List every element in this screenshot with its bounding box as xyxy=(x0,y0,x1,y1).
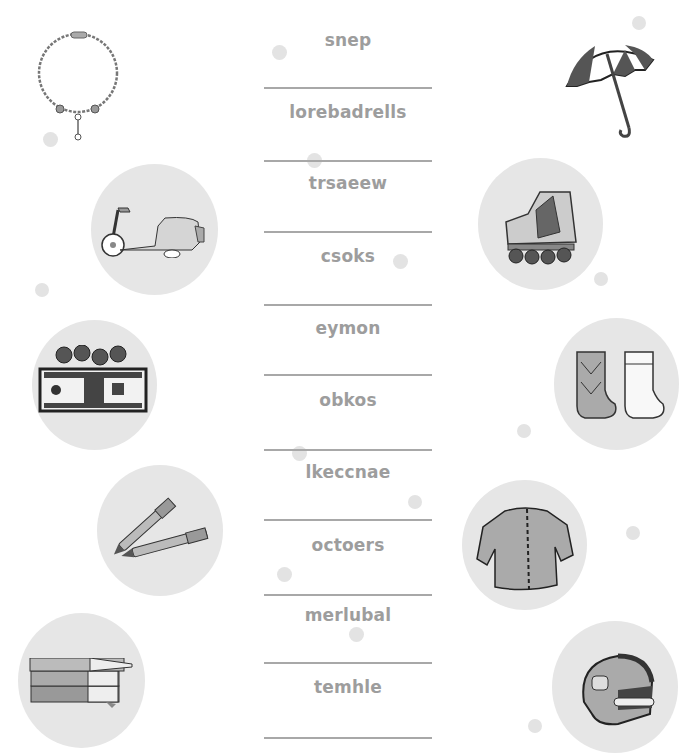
decor-dot xyxy=(626,526,640,540)
scrambled-word: eymon xyxy=(264,318,432,338)
decor-dot xyxy=(528,719,542,733)
answer-line[interactable] xyxy=(264,374,432,376)
scrambled-word: snep xyxy=(264,30,432,50)
answer-line[interactable] xyxy=(264,519,432,521)
scrambled-word: temhle xyxy=(264,677,432,697)
rollerblades-picture xyxy=(498,182,583,267)
decor-dot xyxy=(408,495,422,509)
decor-dot xyxy=(632,16,646,30)
scooter-picture xyxy=(100,198,210,258)
books-picture xyxy=(28,658,138,708)
decor-dot xyxy=(594,272,608,286)
answer-line[interactable] xyxy=(264,594,432,596)
sweater-picture xyxy=(475,505,575,593)
answer-line[interactable] xyxy=(264,449,432,451)
scrambled-word: lorebadrells xyxy=(264,102,432,122)
answer-line[interactable] xyxy=(264,737,432,739)
scrambled-word: lkeccnae xyxy=(264,462,432,482)
decor-dot xyxy=(517,424,531,438)
scrambled-word: obkos xyxy=(264,390,432,410)
scrambled-word: trsaeew xyxy=(264,173,432,193)
scrambled-word: octoers xyxy=(264,535,432,555)
necklace-picture xyxy=(36,28,126,143)
answer-line[interactable] xyxy=(264,87,432,89)
pens-picture xyxy=(104,490,219,560)
decor-dot xyxy=(35,283,49,297)
decor-dot xyxy=(277,567,292,582)
scrambled-word: merlubal xyxy=(264,605,432,625)
scrambled-word: csoks xyxy=(264,246,432,266)
socks-picture xyxy=(575,350,675,422)
decor-dot xyxy=(349,627,364,642)
answer-line[interactable] xyxy=(264,160,432,162)
answer-line[interactable] xyxy=(264,304,432,306)
umbrella-picture xyxy=(565,40,660,140)
answer-line[interactable] xyxy=(264,231,432,233)
money-picture xyxy=(38,345,150,413)
helmet-picture xyxy=(578,652,658,732)
answer-line[interactable] xyxy=(264,662,432,664)
